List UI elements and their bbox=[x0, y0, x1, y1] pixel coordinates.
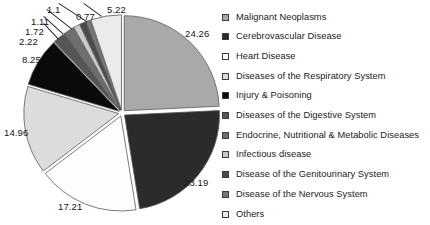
legend-item-label: Infectious disease bbox=[236, 149, 311, 160]
legend-swatch-icon bbox=[222, 132, 229, 139]
slice-value-label-1-1: 1.1 bbox=[47, 5, 61, 15]
legend-item[interactable]: Diseases of the Digestive System bbox=[222, 110, 376, 122]
legend-item-label: Endocrine, Nutritional & Metabolic Disea… bbox=[236, 130, 419, 141]
legend-item-label: Disease of the Nervous System bbox=[236, 189, 368, 200]
slice-value-label-23-19: 23.19 bbox=[184, 178, 208, 188]
legend-swatch-icon bbox=[222, 171, 229, 178]
legend-item-label: Others bbox=[236, 209, 264, 220]
legend-swatch-icon bbox=[222, 53, 229, 60]
legend-item-label: Cerebrovascular Disease bbox=[236, 31, 342, 42]
legend-item[interactable]: Diseases of the Respiratory System bbox=[222, 70, 385, 82]
legend-item[interactable]: Endocrine, Nutritional & Metabolic Disea… bbox=[222, 129, 419, 141]
slice-value-label-14-96: 14.96 bbox=[4, 128, 28, 138]
legend-item-label: Heart Disease bbox=[236, 51, 296, 62]
legend-item[interactable]: Cerebrovascular Disease bbox=[222, 31, 342, 43]
legend-item[interactable]: Infectious disease bbox=[222, 149, 311, 161]
legend-swatch-icon bbox=[222, 14, 229, 21]
legend-item[interactable]: Disease of the Genitourinary System bbox=[222, 169, 389, 181]
slice-value-label-1-11: 1.11 bbox=[31, 17, 49, 27]
legend-item-label: Injury & Poisoning bbox=[236, 90, 312, 101]
legend-item[interactable]: Disease of the Nervous System bbox=[222, 188, 368, 200]
legend-swatch-icon bbox=[222, 211, 229, 218]
slice-value-label-0-77: 0.77 bbox=[76, 12, 95, 22]
slice-value-label-5-22: 5.22 bbox=[107, 5, 126, 15]
pie-chart-figure: 24.26 23.19 17.21 14.96 8.25 2.22 1.72 1… bbox=[0, 0, 430, 225]
slice-value-label-8-25: 8.25 bbox=[22, 55, 41, 65]
legend-item-label: Diseases of the Digestive System bbox=[236, 110, 376, 121]
legend-item[interactable]: Others bbox=[222, 208, 264, 220]
legend-item[interactable]: Injury & Poisoning bbox=[222, 90, 312, 102]
legend-swatch-icon bbox=[222, 151, 229, 158]
slice-value-label-17-21: 17.21 bbox=[58, 202, 82, 212]
pie-slice[interactable] bbox=[124, 111, 219, 209]
slice-value-label-2-22: 2.22 bbox=[19, 37, 38, 47]
legend-item[interactable]: Malignant Neoplasms bbox=[222, 11, 326, 23]
chart-legend: Malignant NeoplasmsCerebrovascular Disea… bbox=[222, 0, 430, 225]
slice-value-label-24-26: 24.26 bbox=[185, 29, 209, 39]
pie-plot-area: 24.26 23.19 17.21 14.96 8.25 2.22 1.72 1… bbox=[0, 0, 225, 225]
legend-item-label: Malignant Neoplasms bbox=[236, 12, 326, 23]
legend-item-label: Disease of the Genitourinary System bbox=[236, 169, 389, 180]
legend-swatch-icon bbox=[222, 191, 229, 198]
legend-swatch-icon bbox=[222, 92, 229, 99]
legend-item[interactable]: Heart Disease bbox=[222, 50, 296, 62]
legend-swatch-icon bbox=[222, 33, 229, 40]
legend-item-label: Diseases of the Respiratory System bbox=[236, 71, 385, 82]
slice-value-label-1-72: 1.72 bbox=[25, 27, 44, 37]
legend-swatch-icon bbox=[222, 73, 229, 80]
legend-swatch-icon bbox=[222, 112, 229, 119]
